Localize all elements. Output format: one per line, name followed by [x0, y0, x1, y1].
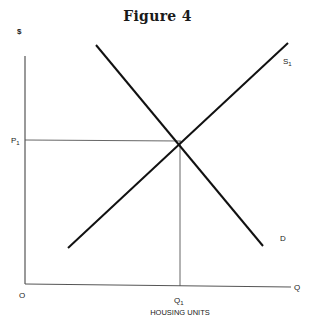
- supply-label: S1: [283, 57, 292, 67]
- y-axis-label: $: [17, 27, 22, 36]
- origin-label: O: [19, 291, 25, 300]
- x-axis-title: HOUSING UNITS: [150, 308, 210, 317]
- p1-guide-line: [25, 140, 181, 141]
- demand-label: D: [280, 234, 286, 243]
- supply-demand-diagram: $ O Q P1 Q1 HOUSING UNITS S1 D: [0, 0, 315, 331]
- p1-label-sub: 1: [16, 140, 20, 146]
- q1-label-sub: 1: [180, 300, 184, 306]
- demand-curve: [96, 45, 263, 246]
- q1-label: Q1: [174, 296, 184, 306]
- supply-curve: [68, 43, 288, 248]
- x-axis-end-label: Q: [294, 283, 300, 292]
- p1-label: P1: [11, 136, 20, 146]
- x-axis: [25, 284, 291, 287]
- supply-label-sub: 1: [288, 61, 292, 67]
